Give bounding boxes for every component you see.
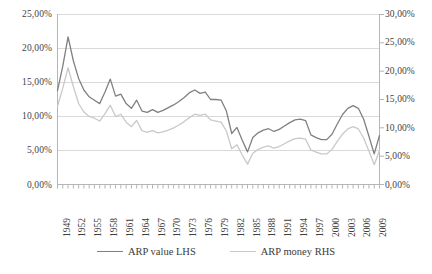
legend-swatch-icon: [97, 251, 123, 252]
gridlines: [57, 15, 380, 151]
legend-label: ARP money RHS: [261, 246, 335, 257]
x-axis-tick-label: 1991: [283, 218, 293, 237]
series-line-arp-value-lhs: [58, 37, 380, 154]
x-axis-tick-label: 1985: [252, 218, 262, 237]
x-axis-tick-label: 2000: [331, 218, 341, 237]
legend-item-arp-money-rhs: ARP money RHS: [230, 246, 335, 257]
x-axis-tick-label: 2009: [378, 218, 388, 237]
x-axis-tick-label: 1955: [93, 218, 103, 237]
x-axis-tick-label: 1997: [315, 218, 325, 237]
x-axis-tick-label: 1949: [62, 218, 72, 237]
x-axis-tick-label: 1973: [188, 218, 198, 237]
y-axis-right-ticks: [380, 15, 384, 185]
x-axis-tick-label: 1982: [236, 218, 246, 237]
x-axis-tick-label: 1976: [204, 218, 214, 237]
x-axis-tick-label: 1961: [125, 218, 135, 237]
x-axis-tick-label: 1988: [267, 218, 277, 237]
legend-label: ARP value LHS: [128, 246, 196, 257]
legend-item-arp-value-lhs: ARP value LHS: [97, 246, 196, 257]
legend-swatch-icon: [230, 251, 256, 252]
x-axis-tick-label: 2003: [347, 218, 357, 237]
chart-legend: ARP value LHS ARP money RHS: [0, 246, 432, 257]
x-axis-ticks: [58, 185, 380, 189]
x-axis-tick-label: 1970: [172, 218, 182, 237]
chart-container: 25,00% 20,00% 15,00% 10,00% 5,00% 0,00% …: [0, 0, 432, 274]
x-axis-tick-label: 2006: [362, 218, 372, 237]
x-axis-tick-label: 1979: [220, 218, 230, 237]
x-axis-tick-label: 1952: [77, 218, 87, 237]
x-axis-tick-label: 1964: [141, 218, 151, 237]
x-axis-tick-label: 1994: [299, 218, 309, 237]
x-axis-tick-label: 1967: [157, 218, 167, 237]
x-axis-tick-label: 1958: [109, 218, 119, 237]
